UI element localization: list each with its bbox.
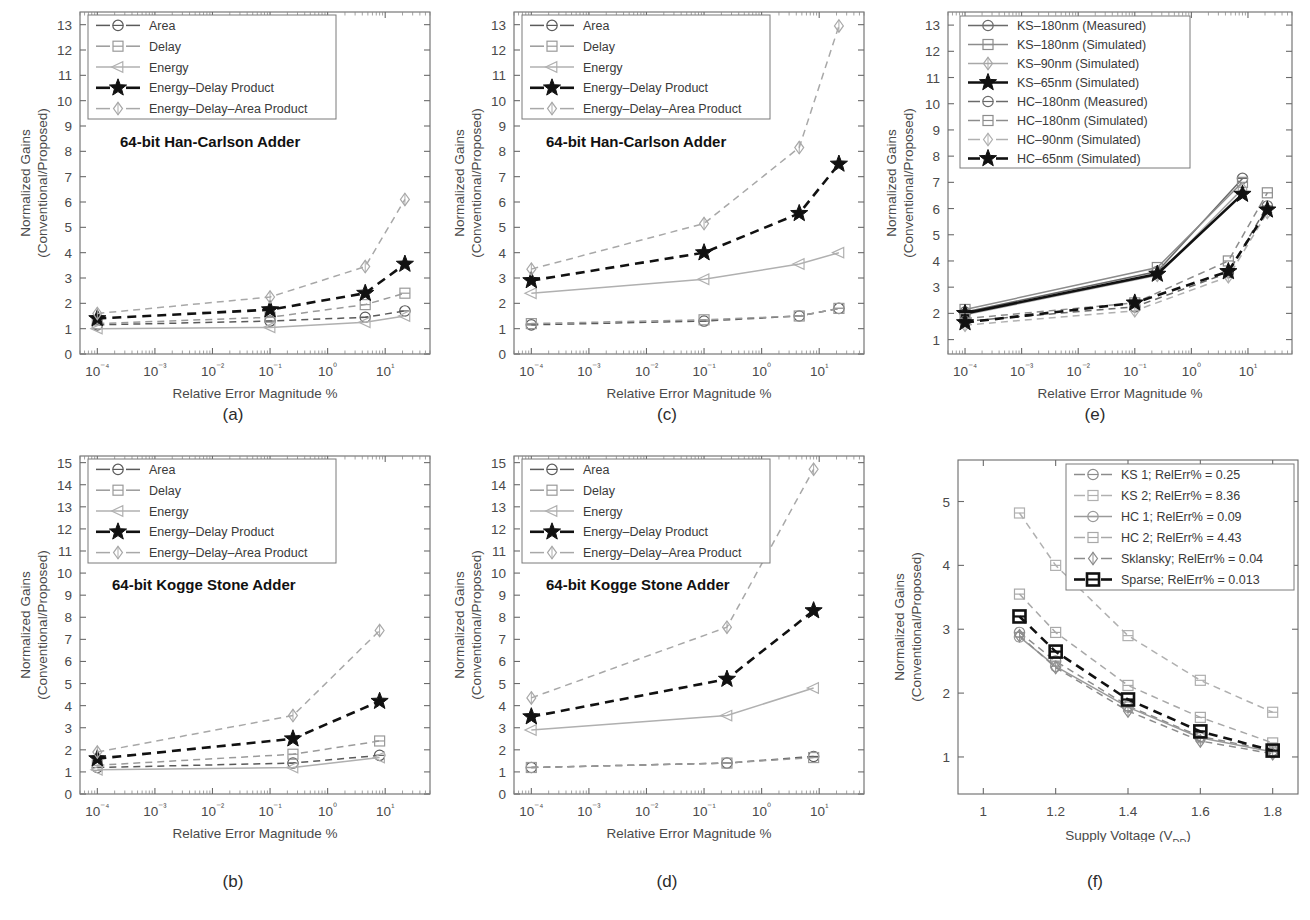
legend-label: KS–180nm (Measured) xyxy=(1017,19,1146,33)
y-tick-label: 9 xyxy=(64,119,72,134)
y-tick-label: 1 xyxy=(64,322,72,337)
legend-label: Energy–Delay Product xyxy=(149,81,275,95)
svg-text:10⁻²: 10⁻² xyxy=(635,801,658,819)
y-tick-label: 8 xyxy=(64,144,72,159)
svg-text:10⁻⁴: 10⁻⁴ xyxy=(519,801,543,819)
y-tick-label: 0 xyxy=(64,347,72,362)
subplot-caption-c: (c) xyxy=(452,405,882,425)
legend-label: Area xyxy=(149,19,175,33)
series-group xyxy=(89,624,388,775)
y-axis-title-line2: (Conventional/Proposed) xyxy=(909,552,924,701)
plot-annotation: 64-bit Han-Carlson Adder xyxy=(546,133,726,150)
legend-label: Energy–Delay–Area Product xyxy=(149,546,308,560)
y-tick-label: 10 xyxy=(57,566,72,581)
svg-text:10⁻³: 10⁻³ xyxy=(577,361,600,379)
svg-text:10⁻⁴: 10⁻⁴ xyxy=(85,801,109,819)
data-series xyxy=(960,173,1248,317)
legend-label: HC 2; RelErr% = 4.43 xyxy=(1121,531,1242,545)
x-axis-title: Supply Voltage (VDD) xyxy=(1065,828,1191,842)
y-tick-label: 12 xyxy=(491,43,506,58)
svg-text:10⁻¹: 10⁻¹ xyxy=(692,801,715,819)
legend-label: Energy xyxy=(583,61,623,75)
svg-text:1.6: 1.6 xyxy=(1191,804,1210,819)
y-axis-title: Normalized Gains(Conventional/Proposed) xyxy=(18,550,50,699)
y-tick-label: 9 xyxy=(498,588,506,603)
data-series xyxy=(956,185,1251,321)
legend-label: Area xyxy=(583,463,609,477)
legend-label: Sklansky; RelErr% = 0.04 xyxy=(1121,552,1263,566)
svg-text:10⁰: 10⁰ xyxy=(1182,361,1201,379)
legend-label: KS 1; RelErr% = 0.25 xyxy=(1121,468,1240,482)
y-axis-title-line2: (Conventional/Proposed) xyxy=(469,550,484,699)
legend-label: Area xyxy=(149,463,175,477)
y-tick-label: 2 xyxy=(932,306,940,321)
subplot-e-canvas: 1234567891011121310⁻⁴10⁻³10⁻²10⁻¹10⁰10¹R… xyxy=(880,2,1310,402)
y-tick-label: 5 xyxy=(932,228,940,243)
subplot-b-canvas: 012345678910111213141510⁻⁴10⁻³10⁻²10⁻¹10… xyxy=(18,442,448,842)
legend-label: Energy xyxy=(583,505,623,519)
plot-legend: AreaDelayEnergyEnergy–Delay ProductEnerg… xyxy=(522,459,770,563)
svg-text:10⁻²: 10⁻² xyxy=(201,361,224,379)
y-tick-label: 12 xyxy=(57,43,72,58)
y-tick-label: 4 xyxy=(498,246,506,261)
y-tick-label: 4 xyxy=(498,699,506,714)
y-axis-title-line1: Normalized Gains xyxy=(18,571,33,679)
svg-text:10¹: 10¹ xyxy=(1239,361,1257,379)
legend-label: Energy–Delay Product xyxy=(149,525,275,539)
y-tick-label: 6 xyxy=(932,202,940,217)
svg-text:10⁻⁴: 10⁻⁴ xyxy=(953,361,977,379)
legend-label: KS–180nm (Simulated) xyxy=(1017,38,1146,52)
y-tick-label: 7 xyxy=(498,632,506,647)
y-tick-label: 3 xyxy=(932,280,940,295)
y-tick-label: 4 xyxy=(942,558,950,573)
legend-box xyxy=(1066,464,1294,590)
y-tick-label: 12 xyxy=(491,522,506,537)
subplot-e: 1234567891011121310⁻⁴10⁻³10⁻²10⁻¹10⁰10¹R… xyxy=(880,2,1310,402)
y-tick-label: 0 xyxy=(498,347,506,362)
y-tick-label: 13 xyxy=(57,500,72,515)
y-tick-label: 4 xyxy=(932,254,940,269)
plot-annotation: 64-bit Kogge Stone Adder xyxy=(546,576,730,593)
legend-label: Energy xyxy=(149,61,189,75)
legend-label: HC–90nm (Simulated) xyxy=(1017,133,1141,147)
y-tick-label: 10 xyxy=(57,94,72,109)
y-tick-label: 11 xyxy=(58,544,72,559)
y-tick-label: 10 xyxy=(491,94,506,109)
legend-label: KS–90nm (Simulated) xyxy=(1017,57,1139,71)
x-axis-title: Relative Error Magnitude % xyxy=(172,826,337,841)
y-axis-title: Normalized Gains(Conventional/Proposed) xyxy=(18,108,50,257)
legend-label: KS 2; RelErr% = 8.36 xyxy=(1121,489,1240,503)
subplot-c-canvas: 01234567891011121310⁻⁴10⁻³10⁻²10⁻¹10⁰10¹… xyxy=(452,2,882,402)
svg-text:10⁰: 10⁰ xyxy=(318,801,337,819)
data-series xyxy=(960,177,1247,314)
y-tick-label: 15 xyxy=(57,456,72,471)
y-tick-label: 1 xyxy=(932,333,940,348)
y-tick-label: 0 xyxy=(498,787,506,802)
legend-label: Delay xyxy=(149,484,182,498)
subplot-f: 1234511.21.41.61.8Supply Voltage (VDD)No… xyxy=(880,442,1310,842)
legend-label: HC–65nm (Simulated) xyxy=(1017,152,1141,166)
y-tick-label: 1 xyxy=(498,765,506,780)
y-axis-title-line1: Normalized Gains xyxy=(452,129,467,237)
plot-legend: AreaDelayEnergyEnergy–Delay ProductEnerg… xyxy=(88,15,336,119)
svg-text:10⁻²: 10⁻² xyxy=(201,801,224,819)
subplot-a-canvas: 01234567891011121310⁻⁴10⁻³10⁻²10⁻¹10⁰10¹… xyxy=(18,2,448,402)
y-axis-title-line1: Normalized Gains xyxy=(452,571,467,679)
plot-annotation: 64-bit Han-Carlson Adder xyxy=(120,133,300,150)
data-series xyxy=(93,193,410,319)
y-tick-label: 13 xyxy=(491,18,506,33)
subplot-d-canvas: 012345678910111213141510⁻⁴10⁻³10⁻²10⁻¹10… xyxy=(452,442,882,842)
subplot-caption-a: (a) xyxy=(18,405,448,425)
y-tick-label: 9 xyxy=(932,123,940,138)
y-tick-label: 2 xyxy=(498,743,506,758)
data-series xyxy=(93,624,384,758)
y-axis-title-line2: (Conventional/Proposed) xyxy=(35,550,50,699)
svg-text:10¹: 10¹ xyxy=(810,801,828,819)
y-tick-label: 5 xyxy=(942,495,950,510)
data-series xyxy=(960,201,1273,327)
x-axis-title: Relative Error Magnitude % xyxy=(606,826,771,841)
data-series xyxy=(1014,589,1277,748)
legend-label: HC–180nm (Simulated) xyxy=(1017,114,1148,128)
y-tick-label: 2 xyxy=(64,743,72,758)
data-series xyxy=(961,183,1247,321)
